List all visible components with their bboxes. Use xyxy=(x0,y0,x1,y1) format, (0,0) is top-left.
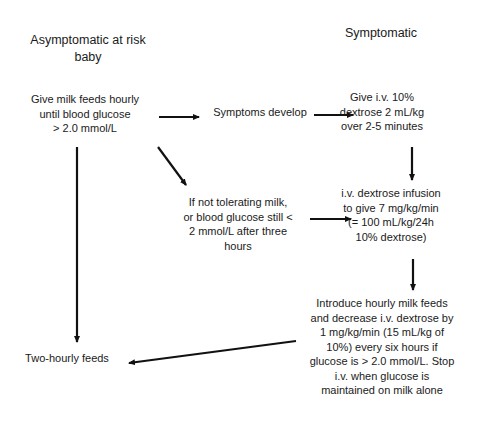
node-bolus: Give i.v. 10% dextrose 2 mL/kg over 2-5 … xyxy=(322,90,442,134)
node-milk-feeds: Give milk feeds hourly until blood gluco… xyxy=(12,92,158,136)
arrow-wean-to-two-hourly xyxy=(129,341,296,363)
header-asymptomatic: Asymptomatic at risk baby xyxy=(18,32,158,66)
node-two-hourly-feeds: Two-hourly feeds xyxy=(18,351,116,366)
arrow-milk-to-not-tolerating xyxy=(158,147,186,185)
node-wean-dextrose: Introduce hourly milk feeds and decrease… xyxy=(300,296,464,398)
node-symptoms-develop: Symptoms develop xyxy=(204,105,316,120)
node-infusion: i.v. dextrose infusion to give 7 mg/kg/m… xyxy=(326,186,456,244)
node-not-tolerating: If not tolerating milk, or blood glucose… xyxy=(177,195,299,253)
header-symptomatic: Symptomatic xyxy=(320,25,442,42)
